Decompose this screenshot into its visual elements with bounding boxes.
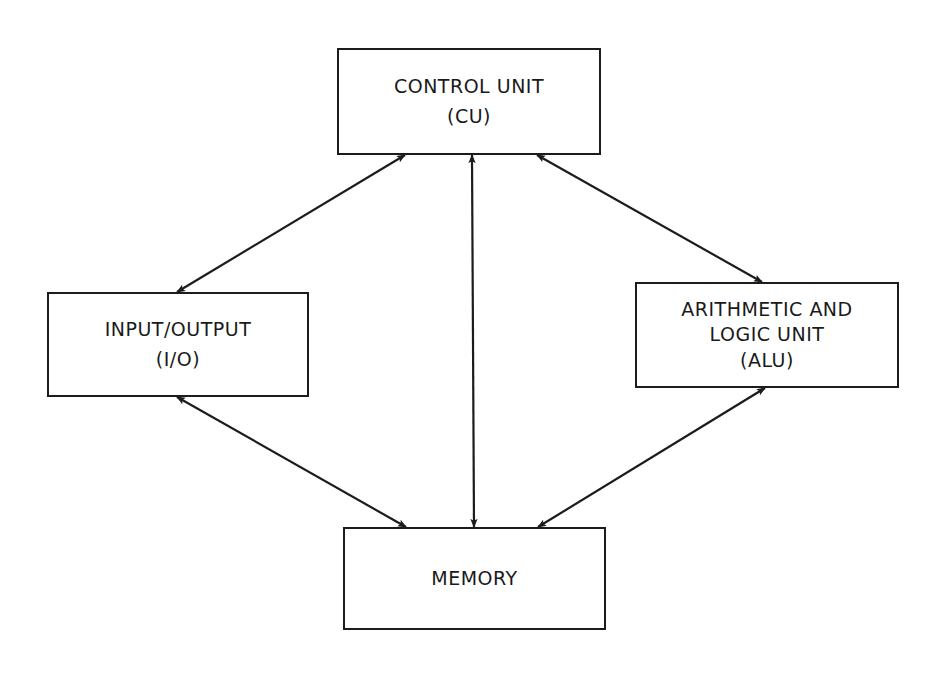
control-unit-box: CONTROL UNIT (CU) — [337, 48, 601, 155]
control-unit-abbrev: (CU) — [447, 102, 491, 131]
arrow-cu-alu — [537, 155, 762, 282]
input-output-label: INPUT/OUTPUT — [105, 315, 252, 344]
input-output-abbrev: (I/O) — [156, 345, 200, 374]
control-unit-label: CONTROL UNIT — [394, 72, 544, 101]
memory-box: MEMORY — [343, 527, 606, 630]
input-output-box: INPUT/OUTPUT (I/O) — [47, 292, 309, 397]
alu-label-line-1: ARITHMETIC AND — [681, 297, 852, 323]
arrow-alu-memory — [538, 388, 765, 527]
arrow-cu-memory — [472, 155, 474, 527]
arrow-cu-io — [177, 155, 405, 292]
alu-box: ARITHMETIC AND LOGIC UNIT (ALU) — [635, 282, 899, 388]
arrow-io-memory — [177, 397, 406, 527]
alu-abbrev: (ALU) — [740, 348, 794, 374]
alu-label-line-2: LOGIC UNIT — [710, 322, 825, 348]
memory-label: MEMORY — [431, 564, 517, 593]
